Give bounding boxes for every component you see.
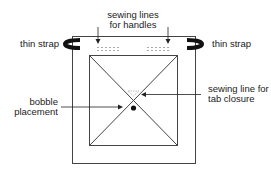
bobble-dot bbox=[131, 105, 136, 110]
handle-stitch-left bbox=[97, 48, 120, 51]
tab-closure-stitch bbox=[128, 91, 139, 96]
bag-diagram: sewing lines for handles thin strap thin… bbox=[0, 0, 271, 175]
strap-label-right: thin strap bbox=[212, 38, 251, 49]
bobble-label-line2: placement bbox=[14, 106, 58, 117]
tab-label-line2: tab closure bbox=[208, 93, 254, 104]
handle-stitch-right bbox=[147, 48, 170, 51]
handles-arrow-left bbox=[96, 27, 101, 44]
handles-arrow-right bbox=[166, 27, 171, 44]
strap-label-left: thin strap bbox=[20, 38, 59, 49]
tab-closure-arrow bbox=[141, 92, 201, 97]
handles-label-line2: for handles bbox=[109, 19, 156, 30]
bobble-arrow bbox=[61, 105, 123, 110]
strap-right-icon bbox=[187, 40, 202, 48]
